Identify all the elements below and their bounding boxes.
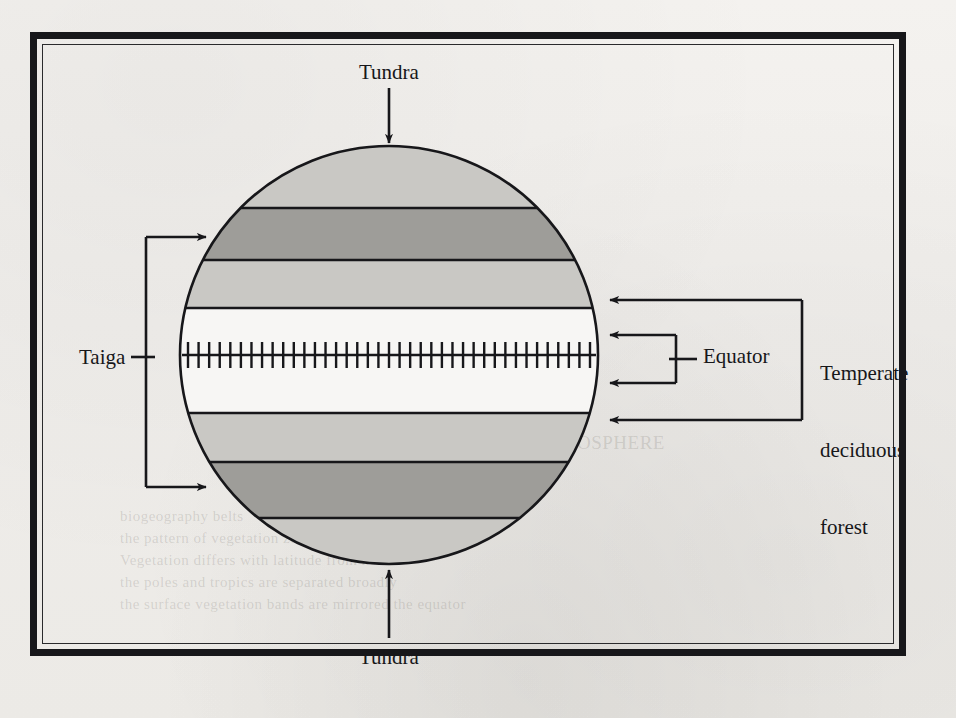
globe-band-tundra-north [176,146,602,208]
equator-bracket [610,335,697,383]
biome-diagram-canvas [0,0,956,718]
label-tundra-top: Tundra [359,60,419,86]
globe-band-temperate-deciduous-north [176,260,602,308]
globe-band-tundra-south [176,518,602,564]
label-taiga: Taiga [79,345,125,371]
label-tdf-line1: Temperate [820,361,908,387]
globe-band-taiga-north [176,208,602,260]
globe [176,146,602,564]
label-temperate-deciduous-forest: Temperate deciduous forest [820,310,908,566]
label-tdf-line2: deciduous [820,438,908,464]
label-tundra-bottom: Tundra [359,645,419,671]
globe-band-taiga-south [176,462,602,518]
label-equator: Equator [703,344,769,370]
label-tdf-line3: forest [820,515,908,541]
globe-band-temperate-deciduous-south [176,413,602,462]
